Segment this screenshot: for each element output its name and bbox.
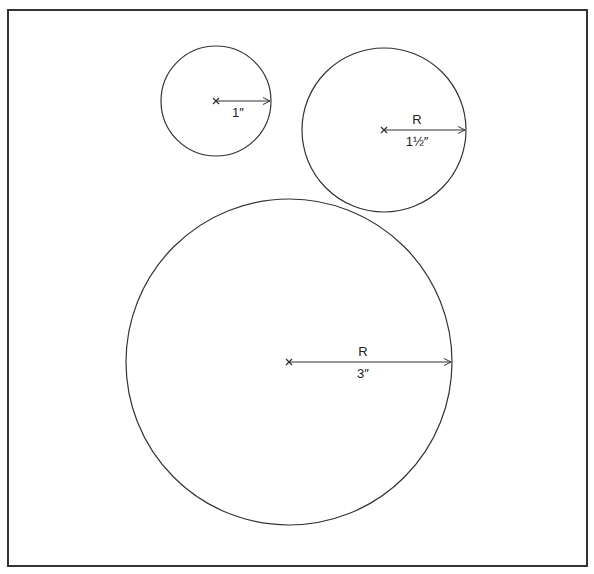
radius-name-label-medium: R (412, 112, 421, 127)
radius-value-label-large: 3″ (357, 366, 369, 381)
diagram-frame (8, 10, 587, 566)
circle-small: 1″ (161, 46, 271, 156)
circle-medium: R 1½″ (302, 48, 466, 212)
circle-large: R 3″ (126, 199, 452, 525)
circle-radius-diagram: 1″ R 1½″ R 3″ (0, 0, 594, 574)
radius-label-small: 1″ (232, 105, 244, 120)
radius-name-label-large: R (358, 344, 367, 359)
radius-value-label-medium: 1½″ (406, 134, 429, 149)
